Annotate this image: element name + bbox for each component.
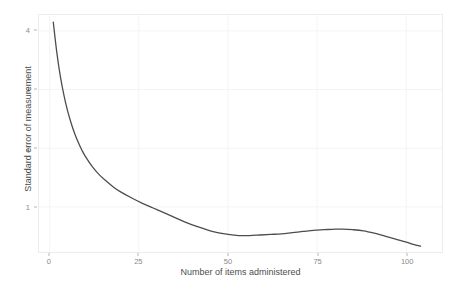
- data-series-line: [39, 15, 442, 252]
- y-tick-mark: [34, 89, 37, 90]
- x-tick-mark: [138, 253, 139, 256]
- x-tick-label: 50: [224, 257, 232, 266]
- y-tick-mark: [34, 207, 37, 208]
- x-tick-label: 100: [401, 257, 414, 266]
- x-tick-label: 0: [47, 257, 51, 266]
- y-tick-mark: [34, 148, 37, 149]
- x-tick-label: 25: [134, 257, 142, 266]
- x-tick-label: 75: [313, 257, 321, 266]
- y-tick-mark: [34, 29, 37, 30]
- x-tick-mark: [317, 253, 318, 256]
- x-tick-mark: [48, 253, 49, 256]
- chart-figure: 1234 0255075100 Number of items administ…: [0, 0, 460, 287]
- x-tick-mark: [407, 253, 408, 256]
- x-tick-mark: [227, 253, 228, 256]
- y-axis-title: Standard error of measurement: [23, 49, 33, 209]
- x-axis-title: Number of items administered: [38, 267, 443, 277]
- plot-panel: [38, 14, 443, 253]
- y-tick-label: 4: [26, 25, 30, 34]
